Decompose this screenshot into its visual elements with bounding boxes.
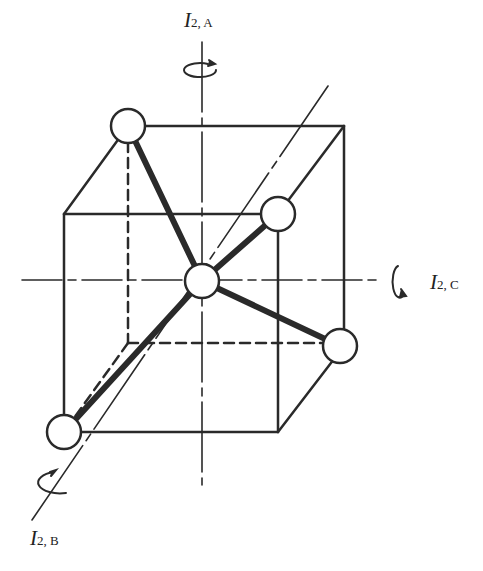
axis-c-subscript: 2, C (437, 277, 459, 292)
axis-a-symbol: I (184, 8, 191, 32)
atom-outer (111, 109, 145, 143)
axis-b-symbol: I (30, 526, 37, 550)
axis-b-label: I2, B (30, 526, 59, 551)
atom-outer (261, 197, 295, 231)
axis-c-symbol: I (430, 270, 437, 294)
atom-outer (323, 329, 357, 363)
atom-central (185, 264, 219, 298)
rotation-arrow-a-icon (184, 60, 216, 77)
axis-a-subscript: 2, A (191, 15, 213, 30)
atom-outer (47, 415, 81, 449)
molecule-diagram (0, 0, 483, 571)
rotation-arrow-c-icon (393, 266, 406, 298)
axis-a-label: I2, A (184, 8, 213, 33)
axis-c-label: I2, C (430, 270, 459, 295)
axis-b-subscript: 2, B (37, 533, 59, 548)
